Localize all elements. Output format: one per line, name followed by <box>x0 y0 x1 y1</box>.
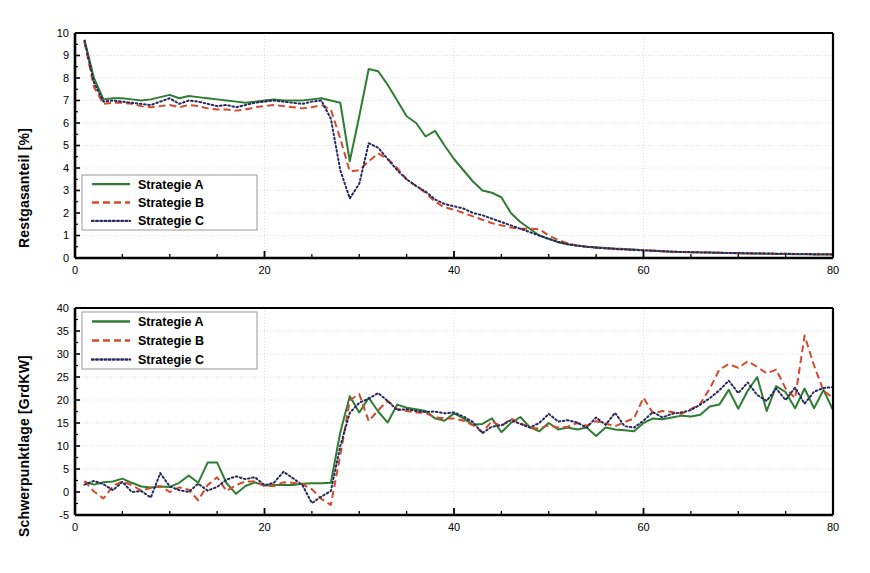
y-tick-label: 2 <box>63 207 69 219</box>
y-tick-label: -5 <box>59 509 69 521</box>
y-axis-label-top: Restgasanteil [%] <box>16 128 32 248</box>
y-tick-label: 5 <box>63 463 69 475</box>
chart-panel-schwerpunktlage: Schwerpunktlage [GrdKW] -505101520253035… <box>0 290 870 573</box>
chart-panel-restgasanteil: Restgasanteil [%] 012345678910020406080S… <box>0 0 870 290</box>
y-axis-label-bottom: Schwerpunktlage [GrdKW] <box>16 355 32 537</box>
chart-svg-schwerpunktlage: -50510152025303540020406080Strategie ASt… <box>0 290 870 573</box>
figure-root: Restgasanteil [%] 012345678910020406080S… <box>0 0 870 573</box>
legend-label: Strategie A <box>138 315 204 329</box>
legend-label: Strategie C <box>138 214 204 228</box>
y-tick-label: 25 <box>57 371 69 383</box>
y-tick-label: 30 <box>57 348 69 360</box>
x-tick-label: 20 <box>258 521 270 533</box>
y-tick-label: 15 <box>57 417 69 429</box>
y-tick-label: 4 <box>63 162 69 174</box>
x-tick-label: 20 <box>258 264 270 276</box>
x-tick-label: 80 <box>827 264 839 276</box>
y-tick-label: 1 <box>63 229 69 241</box>
plot-group: 012345678910020406080 <box>57 27 839 276</box>
y-tick-label: 7 <box>63 94 69 106</box>
y-tick-label: 0 <box>63 252 69 264</box>
legend-label: Strategie C <box>138 353 204 367</box>
legend-label: Strategie B <box>138 334 204 348</box>
y-tick-label: 40 <box>57 302 69 314</box>
x-tick-label: 60 <box>637 521 649 533</box>
x-tick-label: 60 <box>637 264 649 276</box>
x-tick-label: 0 <box>72 521 78 533</box>
x-tick-label: 80 <box>827 521 839 533</box>
y-tick-label: 5 <box>63 139 69 151</box>
chart-svg-restgasanteil: 012345678910020406080Strategie AStrategi… <box>0 0 870 290</box>
x-tick-label: 40 <box>448 264 460 276</box>
x-tick-label: 40 <box>448 521 460 533</box>
y-tick-label: 0 <box>63 486 69 498</box>
y-tick-label: 10 <box>57 27 69 39</box>
y-tick-label: 9 <box>63 49 69 61</box>
y-tick-label: 6 <box>63 117 69 129</box>
y-tick-label: 20 <box>57 394 69 406</box>
y-tick-label: 3 <box>63 184 69 196</box>
legend-label: Strategie A <box>138 178 204 192</box>
y-tick-label: 8 <box>63 72 69 84</box>
legend: Strategie AStrategie BStrategie C <box>82 312 257 369</box>
y-tick-label: 10 <box>57 440 69 452</box>
legend: Strategie AStrategie BStrategie C <box>82 175 257 230</box>
legend-label: Strategie B <box>138 196 204 210</box>
x-tick-label: 0 <box>72 264 78 276</box>
y-tick-label: 35 <box>57 325 69 337</box>
